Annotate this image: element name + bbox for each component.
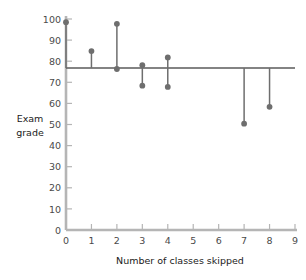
data-point <box>267 104 273 110</box>
y-axis-tick-label: 70 <box>49 77 61 88</box>
data-point <box>63 19 69 25</box>
y-axis-tick-label: 40 <box>49 140 61 151</box>
x-axis-tick-label: 9 <box>292 235 298 246</box>
x-axis-tick-label: 0 <box>63 235 69 246</box>
y-axis-tick-label: 50 <box>49 119 61 130</box>
x-axis-tick-label: 2 <box>114 235 120 246</box>
y-axis-tick-label: 90 <box>49 35 61 46</box>
y-axis-title-line1: Exam <box>17 113 44 124</box>
data-point <box>114 66 120 72</box>
chart-background <box>0 0 306 280</box>
x-axis-tick-label: 6 <box>216 235 222 246</box>
y-axis-tick-label: 100 <box>43 14 61 25</box>
data-point <box>139 83 145 89</box>
x-axis-tick-label: 8 <box>267 235 273 246</box>
data-point <box>139 62 145 68</box>
y-axis-tick-label: 10 <box>49 204 61 215</box>
x-axis-tick-label: 1 <box>88 235 94 246</box>
x-axis-tick-label: 4 <box>165 235 171 246</box>
data-point <box>165 84 171 90</box>
y-axis-tick-label: 30 <box>49 161 61 172</box>
y-axis-tick-label: 20 <box>49 182 61 193</box>
x-axis-title: Number of classes skipped <box>116 255 244 266</box>
data-point <box>89 48 95 54</box>
y-axis-title-line2: grade <box>16 127 44 138</box>
x-axis-tick-label: 5 <box>190 235 196 246</box>
data-point <box>241 121 247 127</box>
data-point <box>114 21 120 27</box>
x-axis-tick-label: 3 <box>139 235 145 246</box>
data-point <box>165 55 171 61</box>
y-axis-tick-label: 60 <box>49 98 61 109</box>
y-axis-tick-label: 80 <box>49 56 61 67</box>
exam-grade-residual-chart: 0102030405060708090100 0123456789 Exam g… <box>0 0 306 280</box>
x-axis-tick-label: 7 <box>241 235 247 246</box>
y-axis-tick-label: 0 <box>55 225 61 236</box>
chart-canvas: 0102030405060708090100 0123456789 Exam g… <box>0 0 306 280</box>
